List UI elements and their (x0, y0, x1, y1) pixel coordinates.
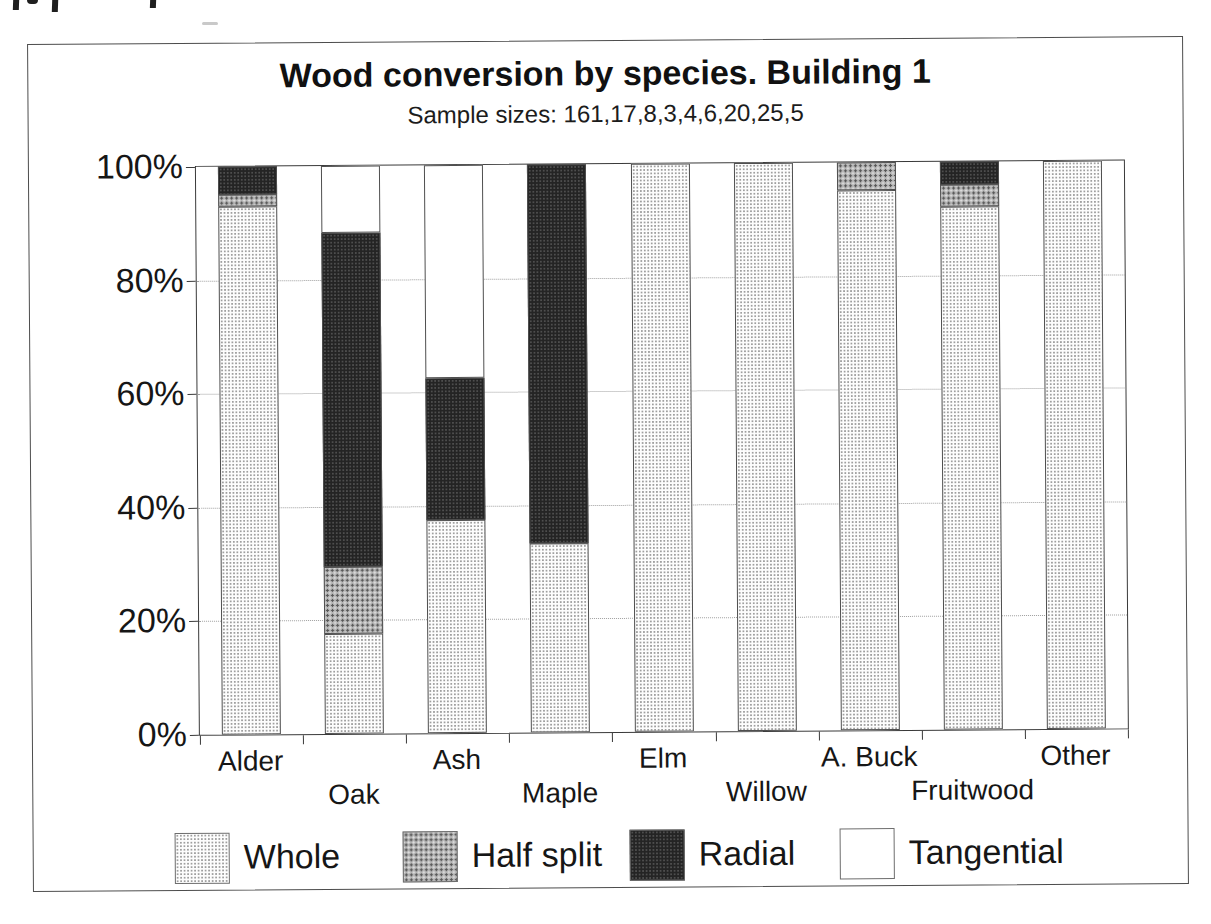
y-axis-tick (188, 394, 197, 395)
bar-segment-ash-radial (426, 378, 486, 520)
bar-segment-willow-whole (734, 163, 797, 731)
x-axis-label-maple: Maple (522, 777, 598, 810)
x-axis-label-ash: Ash (433, 744, 481, 776)
half-split-swatch-icon (403, 831, 458, 882)
scanned-page: Wood conversion by species. Building 1 S… (0, 0, 1211, 924)
bar-segment-fruitwood-radial (940, 161, 999, 184)
y-axis-tick-label: 20% (31, 600, 186, 641)
scan-artifact (202, 22, 218, 25)
bar-segment-alder-half-split (218, 195, 277, 207)
y-axis-tick (186, 167, 195, 168)
bar-maple (527, 164, 590, 732)
plot-area (195, 159, 1129, 735)
legend-label: Whole (244, 837, 341, 877)
y-axis-tick (189, 621, 198, 622)
y-axis-tick (187, 280, 196, 281)
y-axis-tick-label: 0% (32, 714, 187, 755)
bar-oak (321, 166, 384, 734)
tangential-swatch-icon (840, 828, 895, 879)
bar-a-buck (837, 162, 900, 730)
whole-swatch-icon (175, 833, 230, 884)
y-axis-tick-label: 60% (29, 373, 184, 414)
bar-segment-fruitwood-whole (940, 207, 1003, 730)
x-axis-labels: AlderOakAshMapleElmWillowA. BuckFruitwoo… (199, 727, 1128, 819)
bar-other (1043, 161, 1106, 729)
legend-label: Half split (472, 835, 603, 875)
bar-fruitwood (940, 161, 1003, 729)
scan-artifact (52, 0, 58, 12)
bar-segment-maple-radial (527, 164, 589, 543)
bar-segment-a-buck-whole (837, 190, 900, 730)
legend-label: Tangential (909, 832, 1064, 872)
y-axis-tick (188, 508, 197, 509)
x-axis-label-willow: Willow (726, 776, 807, 809)
y-axis-labels: 100%80%60%40%20%0% (27, 43, 190, 892)
bar-alder (218, 166, 281, 734)
bar-segment-other-whole (1043, 161, 1106, 729)
bar-segment-alder-whole (218, 206, 281, 735)
bar-segment-oak-whole (324, 634, 384, 734)
x-axis-label-fruitwood: Fruitwood (911, 774, 1034, 807)
chart-title: Wood conversion by species. Building 1 (27, 50, 1183, 97)
y-axis-tick (190, 735, 199, 736)
scan-artifact (27, 0, 38, 4)
legend: WholeHalf splitRadialTangential (33, 824, 1189, 892)
bar-segment-alder-radial (218, 166, 277, 195)
y-axis-tick-label: 100% (28, 146, 183, 187)
radial-swatch-icon (630, 829, 685, 880)
bar-willow (734, 163, 797, 731)
y-axis-tick-label: 80% (29, 260, 184, 301)
x-axis-label-oak: Oak (328, 779, 380, 811)
x-axis-label-elm: Elm (639, 742, 687, 774)
bar-segment-fruitwood-half-split (940, 184, 999, 207)
bar-segment-ash-whole (427, 520, 487, 733)
scan-artifact (13, 0, 19, 10)
x-axis-label-a-buck: A. Buck (821, 741, 918, 774)
bar-segment-oak-tangential (321, 166, 380, 233)
x-axis-label-other: Other (1040, 739, 1110, 771)
chart-figure: Wood conversion by species. Building 1 S… (27, 36, 1189, 892)
bar-segment-oak-half-split (324, 567, 383, 634)
bar-ash (424, 165, 487, 733)
x-axis-tick (1128, 729, 1129, 738)
bar-segment-elm-whole (630, 163, 693, 731)
bar-segment-oak-radial (322, 233, 383, 567)
bar-segment-a-buck-half-split (837, 162, 896, 191)
bar-segment-ash-tangential (424, 165, 484, 378)
x-axis-label-alder: Alder (218, 745, 284, 777)
bar-elm (630, 163, 693, 731)
y-axis-tick-label: 40% (30, 487, 185, 528)
legend-label: Radial (699, 834, 796, 874)
scan-artifact (150, 0, 156, 8)
bar-segment-maple-whole (530, 543, 590, 733)
